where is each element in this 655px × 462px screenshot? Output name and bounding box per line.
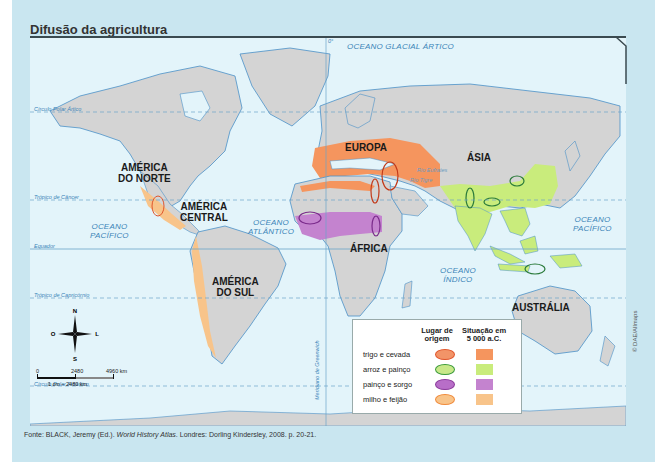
area-swatch [476, 379, 493, 390]
label-meridiano-greenwich: Meridiano de Greenwich [314, 340, 320, 400]
legend-label: milho e feijão [363, 395, 407, 404]
svg-text:O: O [51, 331, 56, 337]
scale-bar: 0 2480 4960 km 1 cm – 2480 km [36, 368, 146, 398]
label-circulo-polar-artico: Círculo Polar Ártico [34, 106, 81, 112]
frame-corner [606, 36, 628, 86]
label-oceano-indico: OCEANOÍNDICO [440, 266, 476, 284]
label-rio-tigre: Rio Tigre [410, 177, 432, 183]
label-oceano-glacial-artico: OCEANO GLACIAL ÁRTICO [347, 42, 454, 51]
label-america-central: AMÉRICACENTRAL [180, 201, 228, 223]
legend-item-trigo-cevada: trigo e cevada [363, 348, 518, 362]
legend-item-painco-sorgo: painço e sorgo [363, 378, 518, 392]
legend-label: arroz e painço [363, 365, 411, 374]
label-tropico-capricornio: Trópico de Capricórnio [34, 292, 89, 298]
scale-tick-1: 2480 [71, 368, 83, 374]
label-asia: ÁSIA [467, 152, 491, 163]
label-america-do-sul: AMÉRICADO SUL [212, 276, 259, 298]
label-america-do-norte: AMÉRICADO NORTE [118, 162, 171, 184]
origin-ellipse-icon [435, 394, 455, 405]
label-zero-degree: 0° [328, 38, 333, 44]
source-citation: Fonte: BLACK, Jeremy (Ed.). World Histor… [24, 431, 316, 438]
label-africa: ÁFRICA [350, 243, 388, 254]
scale-tick-2: 4960 km [106, 368, 127, 374]
compass-rose-icon: N S O L [50, 306, 100, 362]
svg-text:N: N [73, 308, 77, 314]
area-swatch [476, 394, 493, 405]
area-swatch [476, 349, 493, 360]
label-rio-eufrates: Rio Eufrates [417, 167, 447, 173]
label-australia: AUSTRÁLIA [512, 302, 570, 313]
area-swatch [476, 364, 493, 375]
label-oceano-pacifico-west: OCEANOPACÍFICO [90, 222, 129, 240]
svg-text:S: S [73, 356, 77, 362]
legend-header-origin: Lugar deorigem [419, 327, 455, 343]
label-europa: EUROPA [345, 142, 387, 153]
label-tropico-cancer: Trópico de Câncer [34, 194, 79, 200]
legend-label: painço e sorgo [363, 380, 412, 389]
map-credit: © DAE/Allmaps [632, 311, 638, 352]
origin-ellipse-icon [435, 379, 455, 390]
page-margin [0, 0, 12, 462]
legend-header-situation: Situação em5 000 a.C. [457, 327, 511, 343]
origin-ellipse-icon [435, 364, 455, 375]
legend-label: trigo e cevada [363, 350, 410, 359]
scale-ratio: 1 cm – 2480 km [48, 381, 87, 387]
map-legend: Lugar deorigem Situação em5 000 a.C. tri… [352, 319, 522, 414]
label-equador: Equador [34, 243, 55, 249]
legend-item-arroz-painco: arroz e painço [363, 363, 518, 377]
label-oceano-pacifico-east: OCEANOPACÍFICO [573, 215, 612, 233]
legend-item-milho-feijao: milho e feijão [363, 393, 518, 407]
label-oceano-atlantico: OCEANOATLÂNTICO [248, 218, 294, 236]
map-title: Difusão da agricultura [30, 22, 167, 37]
svg-text:L: L [95, 331, 99, 337]
origin-ellipse-icon [435, 349, 455, 360]
